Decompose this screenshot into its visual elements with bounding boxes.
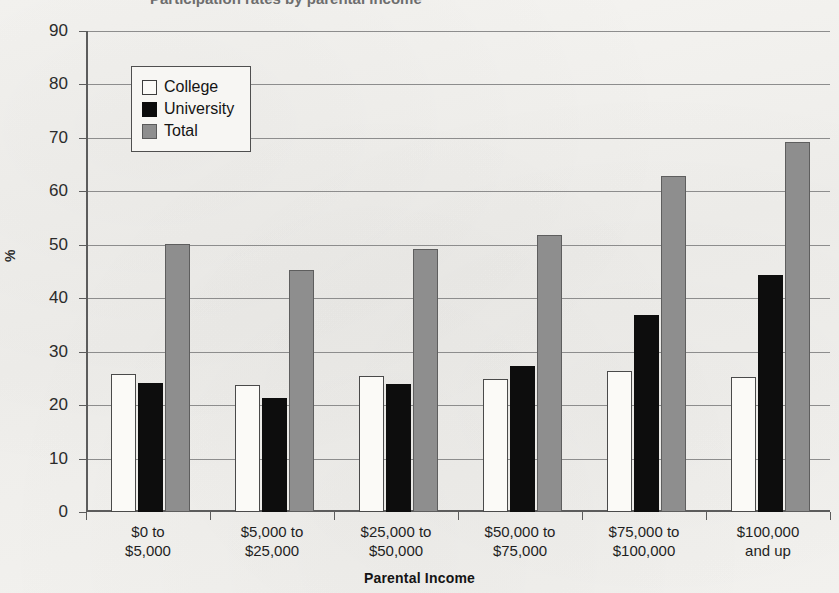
y-tick-mark: [79, 352, 86, 353]
x-group-label: $5,000 to$25,000: [210, 522, 334, 560]
y-tick-mark: [79, 191, 86, 192]
y-axis-line: [86, 31, 88, 512]
legend-label: College: [164, 79, 218, 95]
x-tick-mark: [706, 512, 707, 520]
x-group-label: $75,000 to$100,000: [582, 522, 706, 560]
y-tick-mark: [79, 31, 86, 32]
bar-college: [359, 376, 384, 512]
x-group-label: $100,000and up: [706, 522, 830, 560]
x-group-label-line: $5,000 to: [210, 522, 334, 541]
y-tick-label: 30: [34, 343, 68, 360]
bar-group: [334, 31, 458, 512]
bar-college: [731, 377, 756, 512]
x-tick-mark: [830, 512, 831, 520]
y-tick-label: 90: [34, 22, 68, 39]
bar-total: [537, 235, 562, 512]
y-tick-mark: [79, 405, 86, 406]
y-tick-label: 40: [34, 289, 68, 306]
x-group-label-line: $0 to: [86, 522, 210, 541]
legend-item-college: College: [142, 76, 250, 98]
x-group-label-line: $100,000: [706, 522, 830, 541]
x-group-label-line: $75,000 to: [582, 522, 706, 541]
x-group-label-line: $25,000: [210, 541, 334, 560]
x-group-label: $0 to$5,000: [86, 522, 210, 560]
bar-total: [289, 270, 314, 512]
y-tick-label: 80: [34, 75, 68, 92]
y-axis-title: %: [2, 250, 18, 262]
y-tick-label: 10: [34, 450, 68, 467]
bar-college: [483, 379, 508, 512]
bar-college: [235, 385, 260, 512]
x-tick-mark: [210, 512, 211, 520]
legend-swatch-icon: [142, 124, 157, 139]
y-tick-label: 60: [34, 182, 68, 199]
bar-university: [510, 366, 535, 512]
y-tick-mark: [79, 459, 86, 460]
x-group-label-line: $75,000: [458, 541, 582, 560]
legend-swatch-icon: [142, 102, 157, 117]
bar-total: [661, 176, 686, 512]
x-tick-mark: [458, 512, 459, 520]
x-group-label-line: $50,000 to: [458, 522, 582, 541]
y-tick-mark: [79, 138, 86, 139]
y-tick-mark: [79, 245, 86, 246]
x-group-label-line: $100,000: [582, 541, 706, 560]
y-tick-label: 0: [34, 503, 68, 520]
x-group-label: $25,000 to$50,000: [334, 522, 458, 560]
bar-group: [582, 31, 706, 512]
x-group-label-line: $5,000: [86, 541, 210, 560]
legend-item-total: Total: [142, 120, 250, 142]
legend-label: University: [164, 101, 234, 117]
x-tick-mark: [86, 512, 87, 520]
bar-total: [165, 244, 190, 512]
bar-university: [386, 384, 411, 512]
x-group-label-line: and up: [706, 541, 830, 560]
x-tick-mark: [582, 512, 583, 520]
y-axis-tick-labels: 0102030405060708090: [22, 0, 68, 593]
bar-university: [262, 398, 287, 512]
bar-university: [138, 383, 163, 512]
bar-total: [785, 142, 810, 512]
cropped-title-text: Participation rates by parental income: [150, 0, 570, 6]
y-tick-mark: [79, 298, 86, 299]
x-group-label: $50,000 to$75,000: [458, 522, 582, 560]
y-tick-mark: [79, 84, 86, 85]
x-group-label-line: $25,000 to: [334, 522, 458, 541]
bar-total: [413, 249, 438, 512]
cropped-title-fragment: Participation rates by parental income: [150, 0, 570, 7]
x-group-label-line: $50,000: [334, 541, 458, 560]
y-tick-label: 50: [34, 236, 68, 253]
y-tick-mark: [79, 512, 86, 513]
bar-chart: Participation rates by parental income %…: [0, 0, 839, 593]
bar-group: [458, 31, 582, 512]
bar-university: [634, 315, 659, 512]
x-axis-title: Parental Income: [0, 570, 839, 586]
bar-university: [758, 275, 783, 512]
y-tick-label: 70: [34, 129, 68, 146]
legend-item-university: University: [142, 98, 250, 120]
legend: CollegeUniversityTotal: [131, 66, 251, 152]
bar-college: [607, 371, 632, 512]
bar-group: [706, 31, 830, 512]
legend-swatch-icon: [142, 80, 157, 95]
x-tick-mark: [334, 512, 335, 520]
y-tick-label: 20: [34, 396, 68, 413]
legend-label: Total: [164, 123, 198, 139]
bar-college: [111, 374, 136, 512]
